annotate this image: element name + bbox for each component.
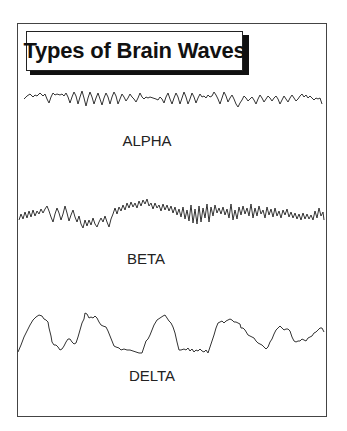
beta-label: BETA [127, 250, 165, 267]
delta-label: DELTA [129, 367, 175, 384]
diagram-frame [17, 23, 327, 417]
title-box: Types of Brain Waves [26, 31, 243, 71]
alpha-label: ALPHA [122, 132, 171, 149]
diagram-title: Types of Brain Waves [23, 38, 245, 64]
